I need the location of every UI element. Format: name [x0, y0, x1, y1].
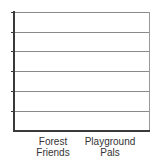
y-tick: [11, 111, 15, 112]
y-tick: [11, 12, 15, 13]
y-tick: [11, 32, 15, 33]
plot-area: [14, 12, 150, 131]
gridline: [14, 32, 149, 33]
category-label-line: Playground: [80, 136, 140, 147]
category-label-line: Forest: [23, 136, 83, 147]
category-label-line: Pals: [80, 147, 140, 158]
gridline: [14, 71, 149, 72]
gridline: [14, 12, 149, 13]
y-tick: [11, 51, 15, 52]
y-tick: [11, 71, 15, 72]
y-tick: [11, 91, 15, 92]
x-category-label: Playground Pals: [80, 136, 140, 158]
x-axis: [13, 130, 150, 132]
gridline: [14, 51, 149, 52]
gridline: [14, 91, 149, 92]
category-label-line: Friends: [23, 147, 83, 158]
x-category-label: Forest Friends: [23, 136, 83, 158]
gridline: [14, 111, 149, 112]
